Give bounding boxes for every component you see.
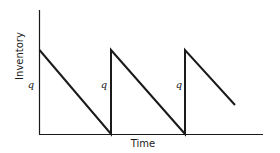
x-axis-label: Time: [130, 138, 155, 149]
q-label-1: q: [28, 79, 34, 90]
y-axis-label: Inventory: [14, 32, 25, 80]
inventory-sawtooth-line: [40, 50, 236, 134]
inventory-sawtooth-diagram: Inventory q q q Time: [0, 0, 280, 153]
q-label-2: q: [101, 79, 107, 90]
q-label-3: q: [176, 79, 182, 90]
